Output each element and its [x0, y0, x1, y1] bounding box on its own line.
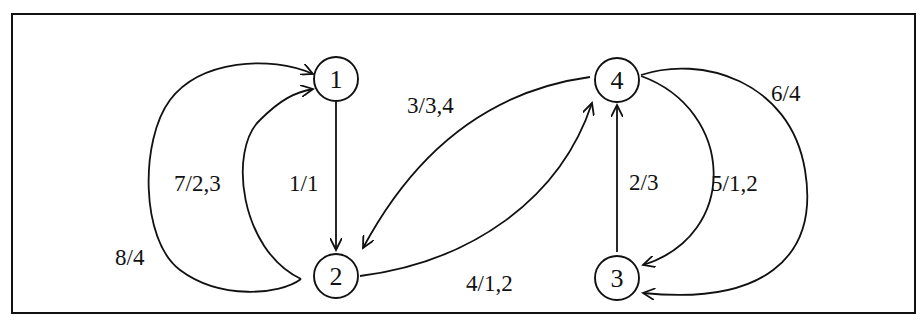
- node-4-label: 4: [611, 66, 624, 95]
- edge-label-4-1-2: 4/1,2: [466, 271, 513, 296]
- edge-label-3-3-4: 3/3,4: [407, 93, 454, 118]
- edge-label-5-1-2: 5/1,2: [711, 171, 758, 196]
- node-2-label: 2: [330, 262, 343, 291]
- state-diagram: 1 2 3 4 1/1 2/3 3/3,4 4/1,2 5/1,2 6/4 7/…: [0, 0, 923, 324]
- edge-label-2-3: 2/3: [629, 170, 658, 195]
- edge-label-1-1: 1/1: [289, 171, 318, 196]
- node-1: 1: [314, 57, 358, 101]
- node-4: 4: [595, 58, 639, 102]
- edge-4-to-2: [363, 77, 590, 248]
- node-2: 2: [314, 254, 358, 298]
- node-1-label: 1: [330, 65, 343, 94]
- edge-label-6-4: 6/4: [771, 81, 801, 106]
- edge-2-to-4: [360, 103, 592, 276]
- edge-label-8-4: 8/4: [115, 245, 145, 270]
- diagram-frame: [12, 14, 915, 313]
- edge-label-7-2-3: 7/2,3: [174, 171, 221, 196]
- node-3: 3: [595, 256, 639, 300]
- node-3-label: 3: [611, 264, 624, 293]
